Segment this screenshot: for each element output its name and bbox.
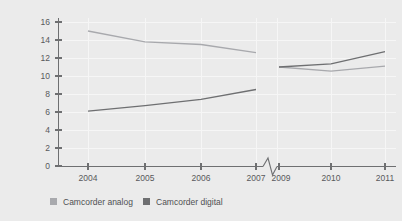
y-tick-label: 0 [45,161,50,171]
y-tick-label: 12 [41,53,51,63]
y-tick-label: 6 [45,107,50,117]
y-tick-label: 10 [41,71,51,81]
y-tick-label: 14 [41,35,51,45]
x-tick-label: 2005 [136,173,155,183]
y-tick-label: 16 [41,17,51,27]
x-tick-label: 2010 [322,173,341,183]
x-tick-label: 2007 [247,173,266,183]
legend-label-analog: Camcorder analog [63,197,133,207]
legend-swatch-digital [143,198,150,205]
x-tick-label: 2006 [192,173,211,183]
x-tick-label: 2009 [272,173,291,183]
legend-label-digital: Camcorder digital [156,197,223,207]
x-tick-label: 2004 [79,173,98,183]
legend-swatch-analog [50,198,57,205]
x-tick-label: 2011 [376,173,395,183]
line-chart: 16 14 12 10 8 6 4 2 0 2004 [0,0,402,221]
y-tick-label: 8 [45,89,50,99]
y-tick-label: 2 [45,143,50,153]
chart-canvas: 16 14 12 10 8 6 4 2 0 2004 [0,0,402,221]
y-tick-label: 4 [45,125,50,135]
